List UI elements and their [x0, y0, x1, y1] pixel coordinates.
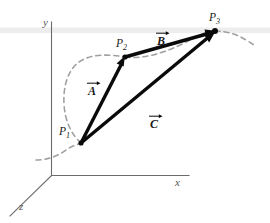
trajectory-curve-segment-left	[36, 143, 81, 160]
vector-label-b: B	[157, 35, 270, 47]
z-axis-label: z	[19, 201, 23, 212]
vector-a-shaft	[81, 62, 123, 143]
x-axis-label: x	[175, 177, 180, 188]
point-label-p2: P2	[116, 38, 127, 52]
point-label-p3-sub: 3	[216, 17, 220, 26]
vector-a-group	[81, 56, 125, 143]
point-label-p1-base: P	[59, 125, 66, 137]
point-marker-p1	[78, 140, 83, 145]
point-label-p3-base: P	[209, 11, 216, 23]
diagram-canvas	[0, 0, 270, 223]
vector-diagram-figure: y x z P1 P2 P3 A B C	[0, 0, 270, 223]
point-marker-p2	[122, 54, 127, 59]
point-label-p2-base: P	[116, 37, 123, 49]
point-label-p1-sub: 1	[66, 131, 70, 140]
vector-label-a: A	[88, 85, 270, 97]
point-label-p3: P3	[209, 12, 220, 26]
z-axis-line	[10, 176, 52, 217]
y-axis-label: y	[43, 17, 48, 28]
vector-label-c-text: C	[150, 117, 158, 131]
vector-label-a-text: A	[88, 84, 96, 98]
vector-label-b-text: B	[157, 34, 165, 48]
point-label-p1: P1	[59, 126, 70, 140]
point-label-p2-sub: 2	[123, 43, 127, 52]
point-marker-p3	[212, 28, 218, 34]
vector-label-c: C	[150, 118, 270, 130]
